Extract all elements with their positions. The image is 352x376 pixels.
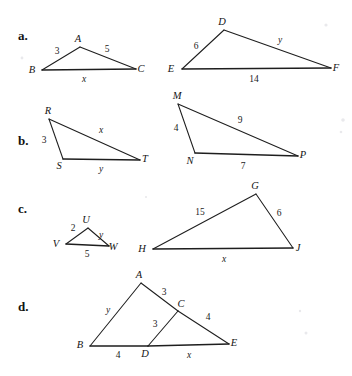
side-label-mp: 9 (238, 115, 243, 125)
vertex-label-p: P (299, 149, 307, 160)
side-label-ac: 3 (162, 287, 167, 297)
edge-hj (153, 248, 293, 249)
side-label-df: y (277, 35, 283, 45)
side-label-ed: 6 (194, 41, 199, 51)
vertex-label-w: W (109, 241, 119, 252)
side-label-st: y (98, 164, 104, 174)
vertex-label-d: D (217, 16, 226, 27)
worksheet-figure: a.35xABC6y14DEFb.3xyRST497MNPc.2y5UVW156… (0, 0, 352, 376)
vertex-label-s: S (56, 160, 62, 171)
row-letter-c: c. (18, 201, 27, 216)
vertex-label-n: N (185, 155, 194, 166)
side-label-de: x (186, 350, 192, 360)
scan-speck (299, 310, 301, 312)
vertex-label-b: B (29, 64, 36, 75)
side-label-bd: 4 (116, 350, 121, 360)
edge-st (63, 159, 140, 160)
side-label-rt: x (98, 125, 104, 135)
scan-speck (340, 131, 343, 134)
side-label-vu: 2 (71, 223, 76, 233)
vertex-label-c: C (177, 298, 185, 309)
vertex-label-h: H (137, 243, 147, 254)
row-letter-a: a. (18, 28, 28, 43)
side-label-vw: 5 (85, 249, 90, 259)
scan-speck (305, 332, 308, 335)
scan-speck (145, 196, 147, 198)
vertex-label-m: M (172, 90, 183, 101)
side-label-hj: x (221, 254, 227, 264)
row-letter-b: b. (18, 133, 28, 148)
scan-speck (324, 23, 327, 26)
row-letter-d: d. (18, 299, 28, 314)
side-label-bc: x (81, 74, 87, 84)
vertex-label-f: F (332, 62, 340, 73)
side-label-mn: 4 (174, 123, 179, 133)
side-label-uw: y (98, 230, 104, 240)
edge-ef (182, 68, 331, 69)
scan-speck (341, 118, 345, 122)
side-label-np: 7 (241, 161, 246, 171)
vertex-label-g: G (251, 180, 259, 191)
side-label-hg: 15 (195, 207, 205, 217)
side-label-cd: 3 (153, 319, 158, 329)
side-label-ac: 5 (105, 44, 110, 54)
edge-bc (42, 69, 136, 70)
side-label-ab: y (105, 305, 111, 315)
vertex-label-e: E (167, 63, 175, 74)
vertex-label-d: D (140, 348, 149, 359)
side-label-ba: 3 (55, 46, 60, 56)
vertex-label-a: A (135, 269, 143, 280)
vertex-label-b: B (77, 339, 84, 350)
side-label-ef: 14 (249, 74, 259, 84)
side-label-gj: 6 (277, 208, 282, 218)
vertex-label-e: E (230, 337, 238, 348)
side-label-rs: 3 (42, 135, 47, 145)
vertex-label-r: R (44, 105, 52, 116)
vertex-label-c: C (137, 63, 145, 74)
scan-speck (21, 57, 24, 60)
vertex-label-a: A (74, 33, 82, 44)
side-label-ce: 4 (206, 312, 211, 322)
